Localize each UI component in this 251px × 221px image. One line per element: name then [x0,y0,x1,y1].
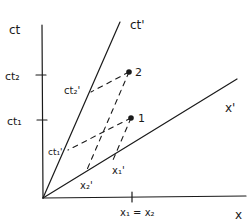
x2-prime-label: x₂' [80,180,93,191]
event-1-point [128,115,134,121]
x1-eq-x2-label: x₁ = x₂ [120,207,155,218]
ct-axis [42,25,43,198]
x-axis-label: x [235,208,242,221]
ct2-label: ct₂ [5,70,20,83]
x1-prime-label: x₁' [112,165,125,176]
ct2-prime-label: ct₂' [64,85,80,96]
x-axis [43,196,246,198]
event1-ct-prime-projection [68,118,131,150]
ct1-prime-label: ct₁' [48,147,63,157]
event-2-label: 2 [135,66,142,79]
spacetime-diagram: ct ct' x' x ct₂ ct₁ ct₂' ct₁' x₁' x₂' x₁… [0,0,251,221]
event-1-label: 1 [138,112,145,125]
ct-prime-axis-label: ct' [130,18,145,32]
ct-axis-label: ct [9,23,21,37]
event-2-point [126,69,132,75]
x-prime-axis-label: x' [225,101,235,115]
ct1-label: ct₁ [7,115,22,128]
x-prime-axis [43,79,237,198]
event2-x-prime-projection [86,72,129,172]
ct-prime-axis [43,22,120,198]
